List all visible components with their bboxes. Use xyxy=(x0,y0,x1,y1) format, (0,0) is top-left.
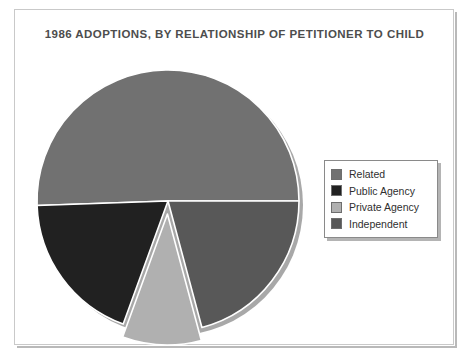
pie-slice-related[interactable] xyxy=(37,70,299,206)
legend-item-related[interactable]: Related xyxy=(331,166,433,183)
legend-item-label: Related xyxy=(349,168,385,180)
chart-legend: Related Public Agency Private Agency Ind… xyxy=(324,160,438,238)
legend-item-public-agency[interactable]: Public Agency xyxy=(331,183,433,200)
legend-item-label: Public Agency xyxy=(349,185,415,197)
chart-page: 1986 ADOPTIONS, BY RELATIONSHIP OF PETIT… xyxy=(0,0,469,360)
legend-swatch-icon xyxy=(331,169,342,180)
legend-swatch-icon xyxy=(331,185,342,196)
legend-item-independent[interactable]: Independent xyxy=(331,216,433,233)
legend-item-label: Private Agency xyxy=(349,201,419,213)
legend-swatch-icon xyxy=(331,202,342,213)
legend-swatch-icon xyxy=(331,218,342,229)
pie-slices xyxy=(37,70,303,345)
legend-item-label: Independent xyxy=(349,218,407,230)
legend-item-private-agency[interactable]: Private Agency xyxy=(331,199,433,216)
